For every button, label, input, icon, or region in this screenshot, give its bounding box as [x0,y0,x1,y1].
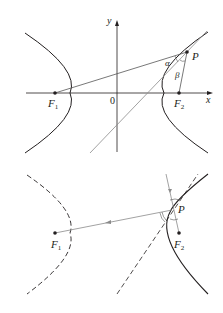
label-P: P [191,50,199,62]
right-branch [167,174,208,294]
label-F2: F2 [173,97,185,111]
right-branch [162,32,208,153]
line-F2-P [179,52,187,93]
label-F1: F1 [47,97,59,111]
angle-arc-left-inner [162,212,166,220]
label-alpha: α [165,58,170,68]
point-F2 [177,231,181,235]
tangent-line-dashed [117,174,198,294]
point-F1 [53,91,57,95]
point-F1 [53,231,57,235]
reflected-ray [55,210,172,233]
hyperbola-diagrams: y x 0 F1 F2 P α β [0,0,223,313]
angle-arc-bottom [170,219,178,220]
label-beta: β [174,70,180,80]
point-P [185,50,189,54]
y-axis-label: y [106,15,112,26]
origin-label: 0 [110,95,115,106]
label-F2: F2 [173,238,185,252]
top-figure: y x 0 F1 F2 P α β [25,15,213,153]
label-P: P [177,203,185,215]
angle-beta-arc [180,60,185,61]
bottom-figure: F1 F2 P [27,174,208,294]
left-branch-dashed [27,175,71,294]
y-axis-arrow-icon [115,20,119,26]
point-F2 [177,91,181,95]
tangent-line [90,31,207,153]
label-F1: F1 [50,238,62,252]
incoming-ray-arrow-icon [168,189,172,193]
x-axis-label: x [205,94,211,105]
